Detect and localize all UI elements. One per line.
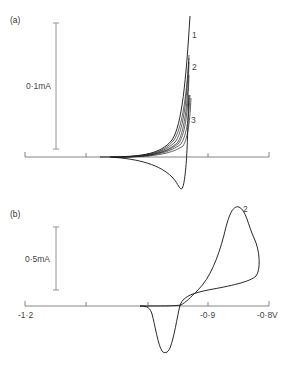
panel-a-curve-label-2: 2 (192, 62, 197, 72)
panel-b-cv-loop (140, 207, 259, 353)
panel-a-curve-label-3: 3 (191, 115, 196, 125)
panel-b-tick-label-mid: -0·9 (200, 310, 215, 320)
panel-a-scale-bar (53, 23, 59, 149)
panel-a: (a) 0·1mA 1 (10, 15, 269, 189)
panel-b-curve-label-2: 2 (243, 204, 248, 214)
panel-a-anodic-curves (100, 16, 191, 157)
figure-canvas: (a) 0·1mA 1 (0, 0, 299, 366)
panel-b-tick-label-left: -1·2 (18, 310, 33, 320)
panel-b-scale-label: 0·5mA (25, 254, 50, 264)
panel-b-x-axis (25, 301, 269, 306)
panel-b-scale-bar (53, 227, 59, 290)
panel-a-curve-label-1: 1 (192, 30, 197, 40)
panel-b-label: (b) (10, 209, 21, 219)
panel-a-cathodic-curve (110, 95, 189, 189)
panel-a-label: (a) (10, 15, 21, 25)
panel-a-scale-label: 0·1mA (26, 81, 51, 91)
panel-b: (b) 0·5mA -1·2 -0·9 -0·8V 2 (10, 204, 278, 353)
panel-b-tick-label-right: -0·8V (257, 310, 278, 320)
